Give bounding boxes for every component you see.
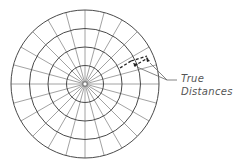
arrowhead-icon: [146, 57, 150, 62]
radial-line: [33, 86, 84, 137]
annotation-distances: Distances: [181, 86, 233, 98]
true-distance-markers: [120, 56, 150, 68]
radial-line: [33, 32, 84, 83]
radial-line: [87, 86, 138, 137]
annotation-true: True: [181, 73, 204, 85]
center-point-icon: [83, 82, 87, 86]
radial-line: [87, 32, 138, 83]
